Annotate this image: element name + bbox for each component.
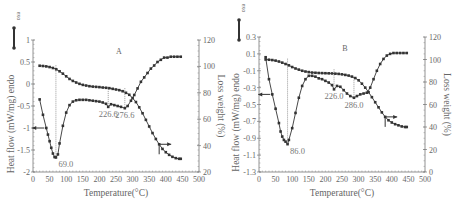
data-point: [155, 138, 158, 141]
data-point: [143, 76, 146, 79]
data-point: [98, 100, 101, 103]
data-point: [301, 85, 304, 88]
data-point: [324, 72, 327, 75]
data-point: [268, 78, 271, 81]
x-axis-title: Temperature(°C): [84, 188, 148, 199]
x-tick-label: 50: [272, 175, 280, 184]
data-point: [148, 125, 151, 128]
data-point: [311, 75, 314, 78]
y-right-tick-label: 60: [429, 101, 437, 110]
data-point: [367, 91, 370, 94]
x-tick-label: 350: [143, 175, 155, 184]
x-tick-label: 250: [336, 175, 348, 184]
data-point: [364, 86, 367, 89]
data-point: [386, 54, 389, 57]
data-point: [294, 67, 297, 70]
data-point: [372, 78, 375, 81]
data-point: [91, 85, 94, 88]
y-right-tick-label: 40: [203, 142, 211, 151]
data-point: [62, 72, 65, 75]
data-point: [405, 52, 408, 55]
x-tick-label: 400: [160, 175, 172, 184]
data-point: [52, 67, 55, 70]
data-point: [50, 147, 53, 150]
x-tick-label: 300: [127, 175, 139, 184]
data-point: [341, 73, 344, 76]
x-tick-label: 300: [353, 175, 365, 184]
data-point: [153, 64, 156, 67]
data-point: [42, 65, 45, 68]
chart-panel-a: 05010015020025030035040045050010.50-0.5-…: [6, 12, 226, 199]
data-point: [124, 107, 127, 110]
data-point: [294, 112, 297, 115]
data-point: [176, 55, 179, 58]
data-point: [354, 77, 357, 80]
data-point: [327, 81, 330, 84]
data-point: [278, 122, 281, 125]
data-point: [379, 63, 382, 66]
data-point: [120, 106, 123, 109]
data-point: [346, 92, 349, 95]
data-point: [128, 93, 131, 96]
y-left-tick-label: -2: [23, 168, 30, 177]
data-point: [376, 69, 379, 72]
data-point: [402, 52, 405, 55]
data-point: [105, 86, 108, 89]
data-point: [101, 101, 104, 104]
data-point: [268, 58, 271, 61]
data-point: [85, 84, 88, 87]
data-point: [168, 154, 171, 157]
data-point: [95, 100, 98, 103]
data-point: [75, 81, 78, 84]
x-tick-label: 100: [60, 175, 72, 184]
chart-canvas: 05010015020025030035040045050010.50-0.5-…: [0, 0, 454, 209]
y-right-tick-label: 20: [203, 168, 211, 177]
x-tick-label: 450: [176, 175, 188, 184]
data-point: [118, 89, 121, 92]
data-point: [317, 77, 320, 80]
data-point: [405, 126, 408, 129]
data-point: [179, 158, 182, 161]
data-point: [377, 106, 380, 109]
data-point: [298, 96, 301, 99]
annotation-label: 286.0: [344, 100, 363, 110]
y-left-tick-label: -0.3: [243, 84, 256, 93]
y-left-tick-label: -0.5: [243, 101, 256, 110]
data-point: [82, 84, 85, 87]
y-left-tick-label: 0.1: [246, 50, 256, 59]
data-point: [349, 95, 352, 98]
data-point: [126, 105, 129, 108]
data-point: [58, 70, 61, 73]
data-point: [111, 88, 114, 91]
data-point: [133, 94, 136, 97]
y-left-tick-label: 0.3: [246, 33, 256, 42]
x-tick-label: 100: [286, 175, 298, 184]
data-point: [281, 135, 284, 138]
data-point: [304, 70, 307, 73]
data-point: [115, 88, 118, 91]
data-point: [331, 84, 334, 87]
data-point: [359, 93, 362, 96]
data-point: [392, 52, 395, 55]
data-point: [160, 59, 163, 62]
data-point: [150, 67, 153, 70]
exo-label: exo: [241, 4, 247, 13]
y-right-tick-label: 120: [429, 33, 441, 42]
data-point: [82, 99, 85, 102]
y-right-tick-label: 20: [429, 146, 437, 155]
y-left-axis-title: Heat flow (mW/mg) endo: [6, 75, 17, 174]
data-point: [45, 65, 48, 68]
data-point: [121, 90, 124, 93]
data-point: [163, 56, 166, 59]
data-point: [130, 99, 133, 102]
data-point: [371, 96, 374, 99]
data-point: [308, 75, 311, 78]
data-point: [331, 72, 334, 75]
y-right-axis-title: Loss weight (%): [215, 75, 226, 138]
data-point: [274, 107, 277, 110]
data-point: [274, 59, 277, 62]
data-point: [361, 82, 364, 85]
data-point: [324, 80, 327, 83]
data-point: [333, 88, 336, 91]
panel-label: A: [116, 47, 122, 56]
